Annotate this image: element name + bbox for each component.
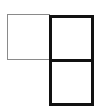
thick-divider: [49, 59, 94, 62]
thin-square: [7, 14, 50, 60]
